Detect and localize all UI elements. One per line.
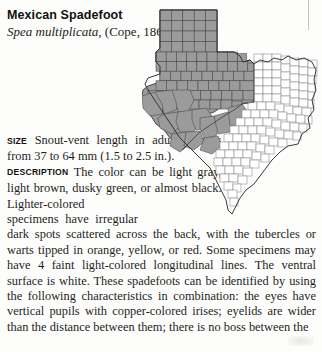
scan-smudge-artifact — [288, 336, 314, 346]
scientific-name: Spea multiplicata — [7, 24, 98, 39]
field-guide-page: Mexican Spadefoot Spea multiplicata, (Co… — [0, 0, 322, 352]
description-label: DESCRIPTION — [7, 167, 68, 177]
size-label: SIZE — [7, 136, 27, 146]
texas-map-svg — [142, 4, 322, 219]
panhandle-counties — [160, 10, 217, 52]
texas-range-map — [142, 4, 322, 219]
